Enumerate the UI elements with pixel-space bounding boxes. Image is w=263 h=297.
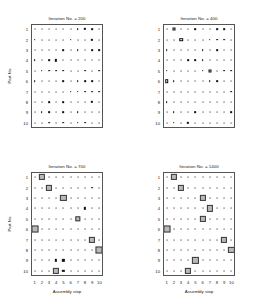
data-marker [49,91,50,92]
data-marker [202,177,203,178]
data-marker [188,81,189,82]
data-marker [173,250,174,251]
y-tick-label: 9 [151,110,160,115]
data-marker [209,250,210,251]
data-marker [77,60,78,61]
data-marker [202,81,203,82]
data-marker [195,102,196,103]
data-marker [56,177,57,178]
x-tick-label: 5 [190,280,200,285]
data-marker [209,187,210,188]
x-tick-label: 9 [87,280,97,285]
data-marker [231,91,233,93]
y-tick-label: 10 [151,268,160,273]
data-marker [70,60,71,61]
data-marker [195,250,196,251]
panel-iter-700: Iteration No. = 700123456789101234567891… [0,0,263,297]
y-tick-label: 8 [19,248,28,253]
data-marker [99,239,100,240]
data-marker [224,229,225,230]
data-marker [89,237,95,243]
x-tick-label: 4 [183,280,193,285]
data-marker [91,80,93,82]
data-marker [188,229,189,230]
data-marker [70,218,71,219]
data-marker [56,122,57,123]
data-marker [41,29,42,30]
data-marker [173,122,175,124]
data-marker [56,102,57,103]
data-marker [195,270,196,271]
data-marker [221,237,227,243]
data-marker [77,28,79,30]
data-marker [217,187,218,188]
data-marker [77,208,78,209]
data-marker [77,229,78,230]
data-marker [63,112,65,114]
data-marker [209,260,210,261]
data-marker [195,187,196,188]
data-marker [34,270,35,271]
data-marker [188,239,189,240]
data-marker [49,177,50,178]
plot-area [31,172,103,276]
data-marker [99,270,100,271]
y-tick-label: 7 [151,237,160,242]
data-marker [63,239,64,240]
data-marker [166,122,167,123]
data-marker [84,207,86,209]
data-marker [77,250,78,251]
data-marker [231,29,232,30]
y-tick-label: 4 [151,206,160,211]
data-marker [70,198,71,199]
data-marker [173,198,174,199]
data-marker [92,218,93,219]
data-marker [231,239,232,240]
data-marker [223,28,225,30]
data-marker [49,208,50,209]
data-marker [70,260,71,261]
data-marker [173,80,175,82]
data-marker [49,50,50,51]
data-marker [77,112,79,114]
data-marker [70,122,71,123]
data-marker [202,122,203,123]
data-marker [224,122,225,123]
data-marker [85,50,86,51]
data-marker [41,81,42,82]
data-marker [224,260,225,261]
data-marker [34,177,35,178]
x-tick-label: 2 [37,280,47,285]
data-marker [181,70,182,71]
data-marker [224,102,225,103]
y-tick-label: 10 [151,120,160,125]
data-marker [34,218,35,219]
data-marker [166,91,167,92]
data-marker [70,208,71,209]
data-marker [77,70,78,71]
data-marker [56,50,57,51]
data-marker [224,187,225,188]
data-marker [195,60,197,62]
data-marker [92,60,93,61]
data-marker [77,198,78,199]
data-marker [70,250,71,251]
x-tick-label: 6 [198,280,208,285]
data-marker [85,177,86,178]
data-marker [49,270,50,271]
data-marker [195,218,196,219]
panel-title: Iteration No. = 200 [31,16,103,22]
data-marker [85,187,86,188]
data-marker [77,39,78,40]
data-marker [166,39,167,40]
x-axis-label: Assembly step [163,289,235,294]
data-marker [202,260,203,261]
data-marker [85,198,86,199]
y-tick-label: 7 [19,237,28,242]
data-marker [217,112,218,113]
data-marker [99,208,100,209]
y-tick-label: 9 [19,258,28,263]
y-tick-label: 1 [19,175,28,180]
y-tick-label: 3 [19,196,28,201]
data-marker [188,177,189,178]
